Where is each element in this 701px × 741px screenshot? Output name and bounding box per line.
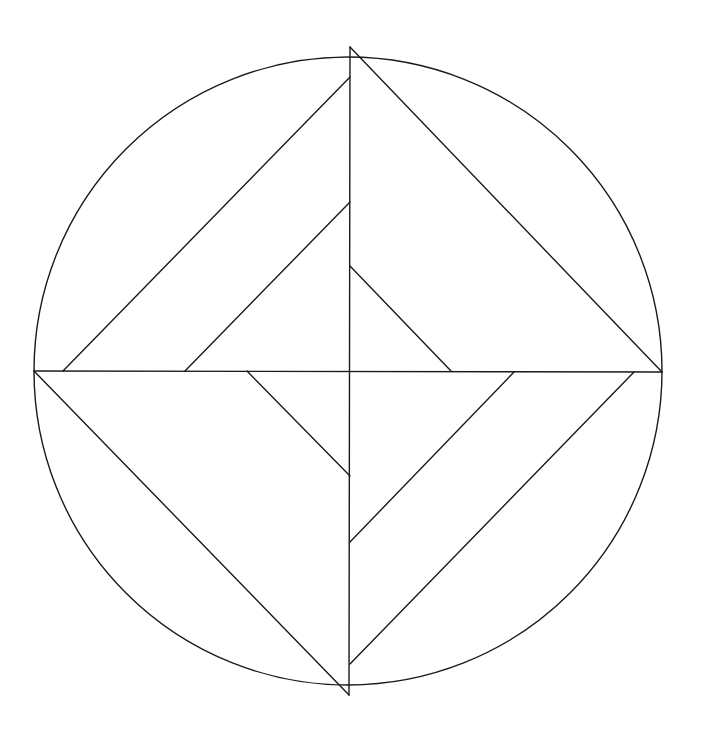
horizontal-diameter-line <box>34 371 662 372</box>
geometric-diagram <box>0 0 701 741</box>
